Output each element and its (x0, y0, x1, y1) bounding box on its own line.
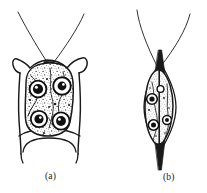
flagellum-b-right (161, 14, 190, 66)
organelle-a-2 (53, 77, 71, 95)
organism-b (137, 10, 190, 170)
illustration-canvas (0, 0, 207, 193)
panel-caption-a: (a) (45, 171, 56, 181)
panel-caption-b: (b) (163, 172, 175, 182)
organism-a (13, 12, 88, 163)
flagellum-a-left (18, 12, 47, 62)
flagellum-a-right (54, 14, 84, 62)
organelle-a-1 (30, 81, 47, 98)
organelle-b-3 (148, 120, 158, 130)
organelle-b-1 (147, 94, 158, 105)
organelle-b-2 (157, 86, 164, 93)
figure-plate: (a) (b) (0, 0, 207, 193)
organelle-b-4 (163, 116, 172, 125)
flagellum-b-left (137, 10, 157, 66)
organelle-a-3 (31, 111, 47, 127)
organelle-a-4 (52, 112, 69, 129)
